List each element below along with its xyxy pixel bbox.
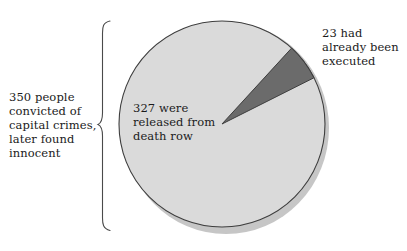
label-total-convicted: 350 people convicted of capital crimes, …: [9, 90, 101, 160]
label-released-from-death-row: 327 were released from death row: [133, 101, 229, 143]
label-already-executed: 23 had already been executed: [322, 26, 406, 68]
pie-chart-figure: 350 people convicted of capital crimes, …: [0, 0, 407, 251]
